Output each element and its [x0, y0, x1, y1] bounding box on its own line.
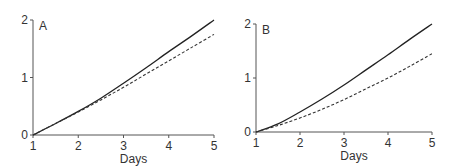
y-tick-label: 2 [21, 13, 28, 27]
x-axis-title: Days [120, 152, 147, 166]
y-tick-label: 1 [21, 71, 28, 85]
x-tick-label: 5 [429, 136, 436, 150]
series-line-solid [33, 20, 214, 135]
y-tick-label: 0 [244, 125, 251, 139]
y-tick-label: 0 [21, 128, 28, 142]
x-tick-label: 2 [297, 136, 304, 150]
panel-label: A [39, 19, 47, 33]
x-tick-label: 4 [385, 136, 392, 150]
x-tick-label: 1 [253, 136, 260, 150]
panel-label: B [262, 23, 270, 37]
series-line-dashed [256, 54, 432, 132]
x-tick-label: 3 [341, 136, 348, 150]
x-tick-label: 2 [75, 139, 82, 153]
x-tick-label: 3 [120, 139, 127, 153]
panel-b: 01212345DaysB [244, 17, 435, 163]
panel-a: 01212345DaysA [21, 13, 217, 166]
x-axis-title: Days [340, 149, 367, 163]
x-tick-label: 4 [165, 139, 172, 153]
series-line-dashed [33, 34, 214, 135]
figure: 01212345DaysA 01212345DaysB [0, 0, 455, 166]
x-tick-label: 1 [30, 139, 37, 153]
y-tick-label: 1 [244, 71, 251, 85]
series-line-solid [256, 24, 432, 132]
x-tick-label: 5 [211, 139, 218, 153]
y-tick-label: 2 [244, 17, 251, 31]
